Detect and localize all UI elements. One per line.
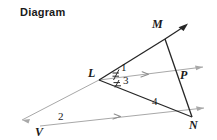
- angle-congruence-marks: [113, 70, 122, 88]
- segment-MN: [165, 39, 192, 117]
- vertex-label-L: L: [88, 67, 95, 79]
- vertex-label-M: M: [152, 18, 163, 30]
- parallel-mark-icon-VN: [113, 114, 121, 119]
- angle-label-1: 1: [121, 62, 127, 73]
- vertex-label-N: N: [189, 119, 198, 131]
- angle-label-3: 3: [123, 75, 129, 86]
- geometry-diagram-figure: Diagram: [0, 0, 217, 140]
- vertex-label-P: P: [180, 69, 187, 81]
- angle-arc-3: [115, 80, 119, 88]
- segment-LM: [99, 39, 165, 80]
- ray-LM-extended: [165, 24, 188, 40]
- ray-L-to-P-arrowhead: [195, 66, 203, 71]
- ray-V-to-N: [40, 106, 204, 126]
- ray-V-to-N-line: [40, 108, 204, 126]
- segment-LN: [99, 80, 192, 117]
- vertex-label-V: V: [35, 126, 43, 138]
- angle-label-2: 2: [58, 111, 64, 122]
- angle-label-4: 4: [152, 96, 158, 107]
